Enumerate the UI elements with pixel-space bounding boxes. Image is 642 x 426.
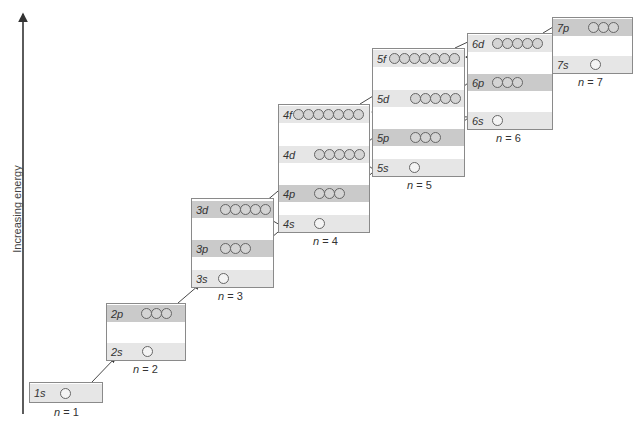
orbital-set (314, 218, 324, 229)
subshell-label: 2p (111, 308, 123, 320)
subshell-label: 5p (377, 132, 389, 144)
orbital-icon (334, 188, 345, 199)
subshell-label: 4f (283, 109, 292, 121)
subshell-label: 4p (283, 188, 295, 200)
subshell-label: 7p (557, 22, 569, 34)
orbital-icon (60, 388, 71, 399)
orbital-set (220, 204, 270, 215)
orbital-icon (218, 273, 229, 284)
orbital-icon (409, 162, 420, 173)
shell-n4: 4f 4d 4p 4s (278, 104, 370, 233)
shell-label-n7: n = 7 (578, 76, 603, 88)
subshell-label: 5d (377, 93, 389, 105)
subshell-4s: 4s (279, 215, 369, 232)
subshell-7p: 7p (553, 19, 632, 36)
subshell-4p: 4p (279, 185, 369, 202)
orbital-set (218, 273, 228, 284)
orbital-set (492, 38, 542, 49)
subshell-label: 5s (377, 162, 389, 174)
orbital-icon (314, 218, 325, 229)
orbital-icon (449, 53, 460, 64)
orbital-set (60, 388, 70, 399)
orbital-icon (512, 77, 523, 88)
shell-label-n5: n = 5 (407, 179, 432, 191)
orbital-icon (353, 109, 364, 120)
subshell-5d: 5d (373, 90, 464, 107)
subshell-3p: 3p (192, 240, 273, 257)
orbital-icon (492, 115, 503, 126)
orbital-icon (608, 22, 619, 33)
subshell-label: 6p (472, 77, 484, 89)
energy-level-diagram: Increasing energy 1s n = 1 2p 2s n = 2 3… (0, 0, 642, 426)
shell-label-n2: n = 2 (133, 363, 158, 375)
orbital-set (314, 149, 364, 160)
orbital-set (410, 93, 460, 104)
subshell-3s: 3s (192, 270, 273, 287)
shell-label-n4: n = 4 (313, 235, 338, 247)
subshell-label: 5f (377, 53, 386, 65)
energy-axis-label: Increasing energy (11, 154, 23, 264)
subshell-label: 2s (111, 346, 123, 358)
orbital-set (293, 109, 363, 120)
orbital-icon (354, 149, 365, 160)
subshell-2s: 2s (107, 343, 185, 360)
shell-n3: 3d 3p 3s (191, 198, 274, 288)
subshell-label: 3s (196, 273, 208, 285)
orbital-set (389, 53, 459, 64)
orbital-set (492, 115, 502, 126)
shell-n2: 2p 2s (106, 303, 186, 361)
subshell-1s: 1s (30, 384, 102, 402)
shell-label-n1: n = 1 (54, 406, 79, 418)
orbital-icon (532, 38, 543, 49)
subshell-5f: 5f (373, 50, 464, 67)
orbital-set (142, 346, 152, 357)
subshell-label: 6d (472, 38, 484, 50)
subshell-label: 1s (34, 387, 46, 399)
orbital-set (588, 22, 618, 33)
orbital-icon (590, 59, 601, 70)
orbital-icon (161, 308, 172, 319)
subshell-label: 3p (196, 243, 208, 255)
orbital-set (220, 243, 250, 254)
orbital-icon (260, 204, 271, 215)
subshell-6d: 6d (468, 35, 552, 52)
shell-label-n3: n = 3 (218, 290, 243, 302)
subshell-label: 4d (283, 149, 295, 161)
subshell-label: 7s (557, 59, 569, 71)
subshell-4f: 4f (279, 106, 369, 123)
subshell-6p: 6p (468, 74, 552, 91)
orbital-set (590, 59, 600, 70)
subshell-6s: 6s (468, 112, 552, 129)
subshell-label: 4s (283, 218, 295, 230)
subshell-5s: 5s (373, 159, 464, 176)
shell-label-n6: n = 6 (496, 132, 521, 144)
orbital-set (314, 188, 344, 199)
shell-n7: 7p 7s (552, 17, 633, 74)
orbital-icon (450, 93, 461, 104)
shell-n1: 1s (29, 382, 103, 403)
subshell-label: 6s (472, 115, 484, 127)
orbital-set (492, 77, 522, 88)
shell-n6: 6d 6p 6s (467, 33, 553, 130)
orbital-set (410, 132, 440, 143)
orbital-icon (240, 243, 251, 254)
subshell-3d: 3d (192, 201, 273, 218)
subshell-7s: 7s (553, 56, 632, 73)
subshell-2p: 2p (107, 305, 185, 322)
orbital-icon (142, 346, 153, 357)
orbital-icon (430, 132, 441, 143)
shell-n5: 5f 5d 5p 5s (372, 48, 465, 177)
orbital-set (141, 308, 171, 319)
subshell-label: 3d (196, 204, 208, 216)
orbital-set (409, 162, 419, 173)
subshell-5p: 5p (373, 129, 464, 146)
subshell-4d: 4d (279, 146, 369, 163)
